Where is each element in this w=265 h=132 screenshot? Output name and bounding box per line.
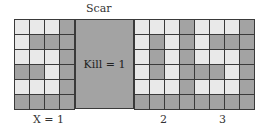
grid-cell-dark	[45, 35, 59, 49]
grid-cell-dark	[240, 20, 254, 34]
label-x1: X = 1	[33, 113, 64, 126]
grid-cell-light	[165, 35, 179, 49]
grid-cell-dark	[180, 95, 194, 109]
grid-cell-light	[15, 80, 29, 94]
grid-cell-dark	[15, 95, 29, 109]
label-2: 2	[160, 113, 167, 126]
grid-cell-dark	[60, 20, 74, 34]
grid-cell-dark	[195, 95, 209, 109]
grid-cell-dark	[225, 35, 239, 49]
grid-cell-dark	[180, 50, 194, 64]
grid-cell-dark	[150, 65, 164, 79]
grid-cell-dark	[195, 65, 209, 79]
label-3: 3	[219, 113, 226, 126]
grid-cell-dark	[225, 95, 239, 109]
grid-cell-light	[225, 50, 239, 64]
grid-cell-dark	[210, 35, 224, 49]
grid-cell-dark	[210, 95, 224, 109]
grid-cell-dark	[240, 35, 254, 49]
grid-cell-light	[15, 20, 29, 34]
grid-left	[14, 19, 75, 110]
grid-cell-light	[45, 50, 59, 64]
grid-cell-dark	[60, 50, 74, 64]
grid-cell-light	[165, 65, 179, 79]
grid-cell-light	[210, 20, 224, 34]
grid-cell-light	[30, 20, 44, 34]
grid-cell-light	[15, 50, 29, 64]
scar-region: Kill = 1	[75, 19, 134, 109]
grid-cell-light	[150, 20, 164, 34]
grid-cell-dark	[60, 95, 74, 109]
grid-cell-light	[165, 20, 179, 34]
grid-cell-light	[135, 65, 149, 79]
grid-right	[134, 19, 255, 110]
grid-cell-light	[45, 20, 59, 34]
grid-cell-light	[225, 80, 239, 94]
grid-cell-light	[165, 80, 179, 94]
grid-cell-light	[210, 50, 224, 64]
grid-cell-light	[135, 50, 149, 64]
grid-cell-light	[15, 35, 29, 49]
grid-cell-dark	[180, 65, 194, 79]
grid-cell-dark	[60, 80, 74, 94]
grid-cell-dark	[210, 65, 224, 79]
grid-cell-light	[135, 35, 149, 49]
scar-title: Scar	[86, 2, 112, 15]
grid-cell-dark	[165, 95, 179, 109]
grid-cell-dark	[60, 65, 74, 79]
grid-cell-dark	[240, 50, 254, 64]
grid-cell-light	[135, 80, 149, 94]
grid-cell-light	[195, 35, 209, 49]
grid-cell-dark	[135, 95, 149, 109]
grid-cell-light	[195, 50, 209, 64]
grid-cell-light	[225, 65, 239, 79]
grid-cell-dark	[45, 95, 59, 109]
grid-cell-dark	[180, 35, 194, 49]
grid-cell-light	[225, 20, 239, 34]
grid-cell-light	[45, 65, 59, 79]
grid-cell-dark	[15, 65, 29, 79]
kill-label: Kill = 1	[84, 58, 126, 71]
grid-cell-light	[45, 80, 59, 94]
grid-cell-light	[30, 80, 44, 94]
grid-cell-dark	[30, 35, 44, 49]
grid-cell-dark	[240, 95, 254, 109]
grid-cell-dark	[30, 65, 44, 79]
grid-cell-dark	[60, 35, 74, 49]
grid-cell-dark	[180, 20, 194, 34]
grid-cell-light	[135, 20, 149, 34]
grid-cell-light	[30, 50, 44, 64]
grid-cell-dark	[240, 65, 254, 79]
grid-cell-dark	[240, 80, 254, 94]
grid-cell-light	[165, 50, 179, 64]
grid-cell-dark	[150, 50, 164, 64]
grid-cell-light	[195, 20, 209, 34]
grid-cell-dark	[150, 95, 164, 109]
grid-cell-light	[150, 80, 164, 94]
grid-cell-dark	[180, 80, 194, 94]
grid-cell-light	[195, 80, 209, 94]
grid-cell-light	[210, 80, 224, 94]
grid-cell-dark	[30, 95, 44, 109]
grid-cell-dark	[150, 35, 164, 49]
